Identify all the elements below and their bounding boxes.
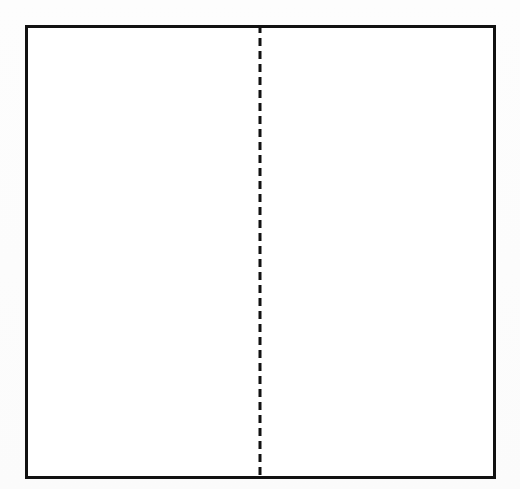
left-region — [28, 28, 260, 476]
diagram-canvas — [0, 0, 520, 489]
vertical-dashed-divider-icon — [258, 25, 262, 480]
right-region — [264, 28, 493, 476]
vertical-dashed-divider — [258, 25, 262, 480]
